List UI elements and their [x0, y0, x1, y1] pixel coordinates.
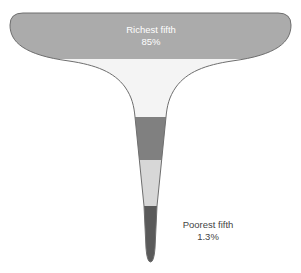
band-poorest-fifth	[0, 206, 301, 273]
label-richest-fifth: Richest fifth 85%	[103, 24, 199, 47]
band-third-fifth	[0, 117, 301, 160]
label-poorest-fifth-title: Poorest fifth	[163, 219, 253, 231]
label-poorest-fifth-value: 1.3%	[163, 231, 253, 243]
band-fourth-fifth	[0, 160, 301, 206]
label-richest-fifth-value: 85%	[103, 36, 199, 48]
label-richest-fifth-title: Richest fifth	[103, 24, 199, 36]
champagne-glass-figure: Richest fifth 85% Poorest fifth 1.3%	[0, 0, 301, 273]
band-second-fifth	[0, 59, 301, 117]
label-poorest-fifth: Poorest fifth 1.3%	[163, 219, 253, 242]
